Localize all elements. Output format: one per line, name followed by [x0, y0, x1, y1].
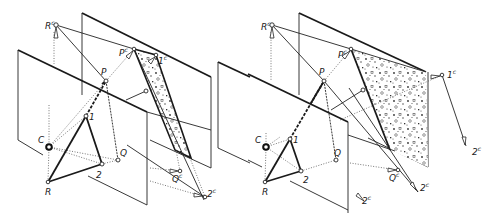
label-pc: Pc	[338, 48, 347, 60]
point-aux	[361, 88, 365, 92]
label-q: Q	[334, 148, 341, 158]
point-q	[334, 158, 338, 162]
point-1	[84, 114, 88, 118]
figure-canvas: Rc P Pc 1c 1 2 Q C R Qc 2c	[0, 0, 498, 224]
point-p	[104, 79, 108, 83]
point-1c	[440, 73, 444, 77]
point-p	[322, 79, 326, 83]
label-r: R	[45, 187, 51, 197]
label-rc: Rc	[45, 19, 55, 31]
label-qc: Qc	[172, 172, 183, 184]
point-aux	[144, 89, 148, 93]
label-2c: 2c	[207, 187, 217, 199]
label-rc: Rc	[261, 20, 271, 32]
label-q: Q	[120, 148, 127, 158]
arrow-icon	[270, 27, 274, 38]
point-r	[263, 180, 267, 184]
label-2c-low: 2c	[362, 194, 372, 206]
label-1c: 1c	[447, 68, 457, 80]
arrow-icon	[170, 169, 178, 173]
arrow-icon	[388, 168, 396, 172]
right-rays	[265, 25, 466, 192]
diagram-svg: Rc P Pc 1c 1 2 Q C R Qc 2c	[0, 0, 498, 224]
label-2c-far: 2c	[472, 145, 482, 157]
arrow-icon	[462, 137, 466, 145]
label-2: 2	[96, 170, 102, 180]
label-p: P	[319, 67, 325, 77]
right-diagram: Rc P Pc 1c 2c 1 2 Q C R Qc 2c 2c	[248, 13, 482, 213]
label-c: C	[38, 135, 45, 145]
label-1: 1	[293, 135, 299, 145]
point-q	[116, 158, 120, 162]
arrow-icon	[54, 27, 58, 38]
left-diagram: Rc P Pc 1c 1 2 Q C R Qc 2c	[18, 13, 250, 205]
left-triangle	[48, 81, 106, 182]
point-c-light-source	[46, 144, 52, 150]
label-c: C	[255, 135, 262, 145]
label-qc: Qc	[389, 171, 400, 183]
point-1	[288, 137, 292, 141]
label-r: R	[262, 187, 268, 197]
arrow-icon	[431, 75, 440, 79]
left-third-plane	[218, 62, 250, 163]
label-2c: 2c	[420, 181, 430, 193]
point-pc	[349, 47, 353, 51]
label-p: P	[101, 67, 107, 77]
label-2: 2	[303, 175, 309, 185]
label-1c: 1c	[158, 54, 168, 66]
point-c-light-source	[263, 144, 269, 150]
point-2	[100, 162, 104, 166]
arrow-icon	[410, 182, 416, 190]
point-2	[299, 169, 303, 173]
point-r	[46, 180, 50, 184]
label-1: 1	[89, 112, 95, 122]
left-front-plane	[18, 50, 147, 205]
point-pc	[132, 47, 136, 51]
